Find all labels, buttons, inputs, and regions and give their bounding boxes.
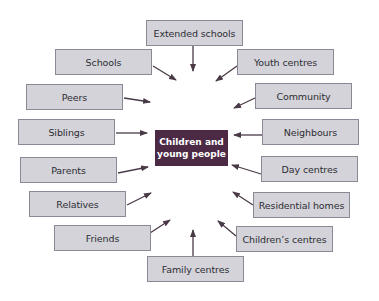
node-label: Youth centres: [254, 57, 317, 68]
arrow-residential-homes: [233, 192, 253, 205]
node-label: Schools: [86, 57, 122, 68]
node-label: Friends: [86, 233, 119, 244]
node-label: Extended schools: [154, 28, 236, 39]
node-day-centres: Day centres: [261, 156, 358, 182]
arrow-childrens-centres: [218, 221, 236, 236]
node-community: Community: [255, 83, 352, 109]
node-label: Day centres: [282, 164, 338, 175]
center-label-line2: young people: [157, 148, 226, 160]
node-label: Relatives: [56, 199, 98, 210]
arrow-relatives: [127, 193, 151, 205]
node-parents: Parents: [20, 157, 117, 183]
center-label-line1: Children and: [159, 136, 224, 148]
node-youth-centres: Youth centres: [237, 49, 334, 75]
center-node-children-and-young-people: Children and young people: [155, 130, 228, 166]
node-relatives: Relatives: [29, 191, 126, 217]
node-peers: Peers: [26, 84, 123, 110]
node-label: Neighbours: [284, 127, 337, 138]
node-neighbours: Neighbours: [262, 119, 359, 145]
node-childrens-centres: Children’s centres: [236, 226, 333, 252]
arrow-community: [234, 98, 255, 108]
arrow-youth-centres: [216, 66, 237, 81]
arrow-parents: [118, 167, 148, 173]
arrow-peers: [124, 98, 150, 102]
node-label: Community: [276, 91, 330, 102]
node-label: Peers: [62, 92, 87, 103]
node-extended-schools: Extended schools: [146, 20, 243, 46]
node-family-centres: Family centres: [147, 256, 244, 282]
arrow-day-centres: [232, 165, 261, 174]
node-friends: Friends: [54, 225, 151, 251]
arrow-friends: [150, 220, 170, 233]
node-label: Family centres: [162, 264, 230, 275]
node-label: Residential homes: [259, 200, 345, 211]
node-residential-homes: Residential homes: [253, 192, 350, 218]
node-label: Siblings: [48, 127, 84, 138]
node-label: Parents: [51, 165, 86, 176]
arrow-schools: [153, 66, 176, 80]
node-label: Children’s centres: [242, 234, 326, 245]
node-schools: Schools: [55, 49, 152, 75]
node-siblings: Siblings: [18, 119, 115, 145]
